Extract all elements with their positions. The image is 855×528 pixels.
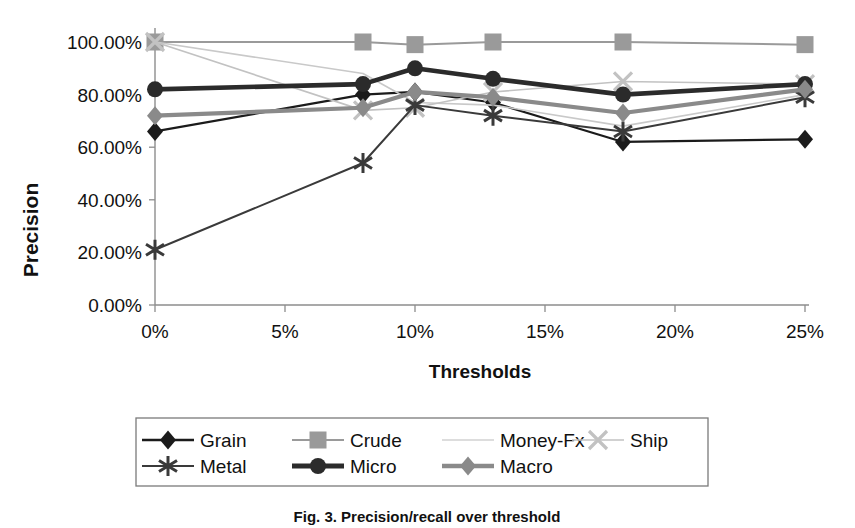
data-point — [485, 34, 502, 51]
x-tick-label: 15% — [526, 321, 564, 342]
legend-item-grain[interactable]: Grain — [142, 430, 246, 451]
data-point — [147, 81, 163, 97]
data-point — [146, 240, 164, 260]
series-line — [155, 92, 805, 142]
x-tick-label: 20% — [656, 321, 694, 342]
legend-label: Ship — [630, 430, 668, 451]
x-tick-label: 5% — [271, 321, 299, 342]
figure-container: Precision 0.00%20.00%40.00%60.00%80.00%1… — [0, 0, 855, 528]
data-point — [407, 36, 424, 53]
y-tick-label: 100.00% — [67, 32, 142, 53]
series-line — [155, 42, 805, 45]
x-tick-label: 10% — [396, 321, 434, 342]
data-point — [797, 36, 814, 53]
series-line — [155, 97, 805, 250]
x-tick-label: 25% — [786, 321, 824, 342]
chart-legend: GrainCrudeMoney-FxShipMetalMicroMacro — [136, 418, 708, 486]
legend-label: Macro — [500, 456, 553, 477]
legend-marker — [160, 431, 176, 450]
data-point — [615, 34, 632, 51]
precision-threshold-line-chart: Precision 0.00%20.00%40.00%60.00%80.00%1… — [0, 0, 855, 528]
figure-caption: Fig. 3. Precision/recall over threshold — [294, 508, 561, 525]
legend-label: Metal — [200, 456, 246, 477]
legend-item-metal[interactable]: Metal — [142, 456, 246, 477]
y-tick-label: 0.00% — [88, 295, 142, 316]
data-point — [797, 130, 813, 149]
data-point — [355, 34, 372, 51]
legend-label: Grain — [200, 430, 246, 451]
legend-label: Micro — [350, 456, 396, 477]
data-point — [355, 76, 371, 92]
data-point — [407, 60, 423, 76]
series-crude — [147, 34, 814, 54]
x-axis-tick-labels: 0%5%10%15%20%25% — [141, 321, 824, 342]
y-axis-tick-labels: 0.00%20.00%40.00%60.00%80.00%100.00% — [67, 32, 142, 316]
y-tick-label: 40.00% — [78, 190, 143, 211]
legend-item-macro[interactable]: Macro — [442, 456, 553, 477]
legend-marker — [310, 432, 327, 449]
legend-marker — [310, 458, 326, 474]
data-point — [485, 71, 501, 87]
series-grain — [147, 82, 813, 151]
legend-item-ship[interactable]: Ship — [572, 430, 668, 451]
series-line — [155, 68, 805, 94]
x-axis-title: Thresholds — [429, 361, 531, 382]
x-tick-label: 0% — [141, 321, 169, 342]
data-point — [147, 106, 163, 125]
data-series-layer — [146, 33, 814, 260]
data-point — [615, 104, 631, 123]
legend-label: Crude — [350, 430, 402, 451]
y-axis-title: Precision — [19, 183, 42, 278]
y-tick-label: 80.00% — [78, 85, 143, 106]
chart-axes — [149, 28, 809, 312]
legend-marker — [460, 457, 476, 476]
legend-item-crude[interactable]: Crude — [292, 430, 402, 451]
y-tick-label: 60.00% — [78, 137, 143, 158]
legend-item-micro[interactable]: Micro — [292, 456, 396, 477]
y-tick-label: 20.00% — [78, 242, 143, 263]
legend-item-money-fx[interactable]: Money-Fx — [442, 430, 585, 451]
data-point — [615, 87, 631, 103]
